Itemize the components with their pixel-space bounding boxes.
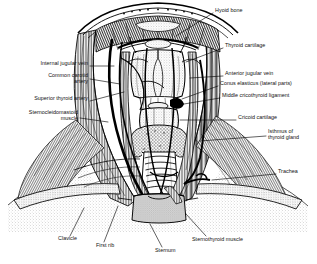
label-cricoid-cartilage: Cricoid cartilage (238, 114, 277, 120)
label-thyroid-cartilage: Thyroid cartilage (225, 42, 265, 48)
label-clavicle: Clavicle (58, 235, 77, 241)
label-sternocleidomastoid-muscle: Sternocleidomastoid muscle (0, 109, 78, 122)
label-anterior-jugular-vein: Anterior jugular vein (225, 70, 273, 76)
label-hyoid-bone: Hyoid bone (215, 7, 242, 13)
label-sternum: Sternum (155, 247, 176, 253)
label-conus-elasticus: Conus elasticus (lateral parts) (220, 80, 292, 86)
anatomical-figure: Hyoid bone Thyroid cartilage Anterior ju… (0, 0, 317, 264)
label-superior-thyroid-artery: Superior thyroid artery (0, 95, 88, 101)
label-trachea: Trachea (278, 168, 298, 174)
label-sternothyroid-muscle: Sternothyroid muscle (192, 236, 243, 242)
label-first-rib: First rib (96, 242, 114, 248)
label-common-carotid-artery: Common carotid artery (0, 72, 88, 85)
label-middle-cricothyroid-ligament: Middle cricothyroid ligament (222, 92, 289, 98)
label-isthmus-of-thyroid-gland: Isthmus of thyroid gland (268, 128, 299, 141)
label-internal-jugular-vein: Internal jugular vein (0, 60, 88, 66)
